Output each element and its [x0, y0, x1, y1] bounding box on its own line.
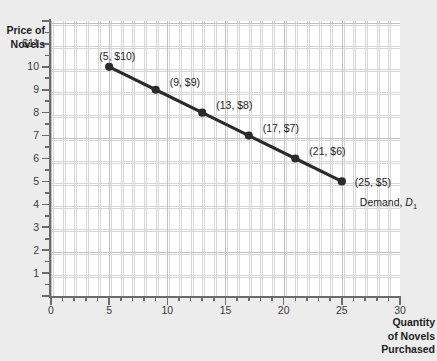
demand-curve-figure: 12345678910$11 051015202530 Price ofNove… [0, 0, 437, 361]
demand-curve-line [0, 0, 437, 361]
data-point-marker [105, 63, 113, 71]
data-point-marker [291, 154, 299, 162]
data-point-marker [198, 109, 206, 117]
data-point-marker [338, 177, 346, 185]
data-point-marker [152, 86, 160, 94]
demand-curve-polyline [109, 67, 342, 182]
data-point-marker [245, 131, 253, 139]
